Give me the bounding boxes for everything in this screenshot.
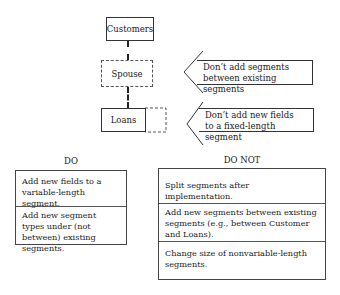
do-not-row: Change size of nonvariable-length segmen… xyxy=(159,242,325,280)
do-not-row: Split segments after implementation. xyxy=(159,169,325,204)
do-not-row: Add new segments between existing segmen… xyxy=(159,204,325,242)
note-no-segments-between: Don’t add segments between existing segm… xyxy=(197,60,313,85)
note-1-line2: between existing segments xyxy=(203,73,312,95)
note-2-line1: Don’t add new fields xyxy=(205,110,313,121)
do-not-table: Split segments after implementation. Add… xyxy=(158,168,326,280)
customers-label: Customers xyxy=(107,24,153,34)
do-not-heading: DO NOT xyxy=(158,155,326,165)
do-heading: DO xyxy=(15,156,127,166)
do-table: Add new fields to a variable-length segm… xyxy=(15,170,127,245)
note-no-fields-fixed-length: Don’t add new fields to a fixed-length s… xyxy=(199,108,314,132)
connector-spouse-loans xyxy=(127,87,129,108)
note-2-line2: to a fixed-length segment xyxy=(205,121,313,143)
loans-segment: Loans xyxy=(101,108,146,132)
note-1-line1: Don’t add segments xyxy=(203,62,312,73)
do-row: Add new segment types under (not between… xyxy=(16,207,126,245)
do-row: Add new fields to a variable-length segm… xyxy=(16,171,126,207)
connector-customers-spouse xyxy=(127,41,129,60)
loans-label: Loans xyxy=(111,115,137,125)
spouse-label: Spouse xyxy=(111,69,142,79)
customers-segment: Customers xyxy=(106,17,154,41)
spouse-segment: Spouse xyxy=(101,60,153,87)
